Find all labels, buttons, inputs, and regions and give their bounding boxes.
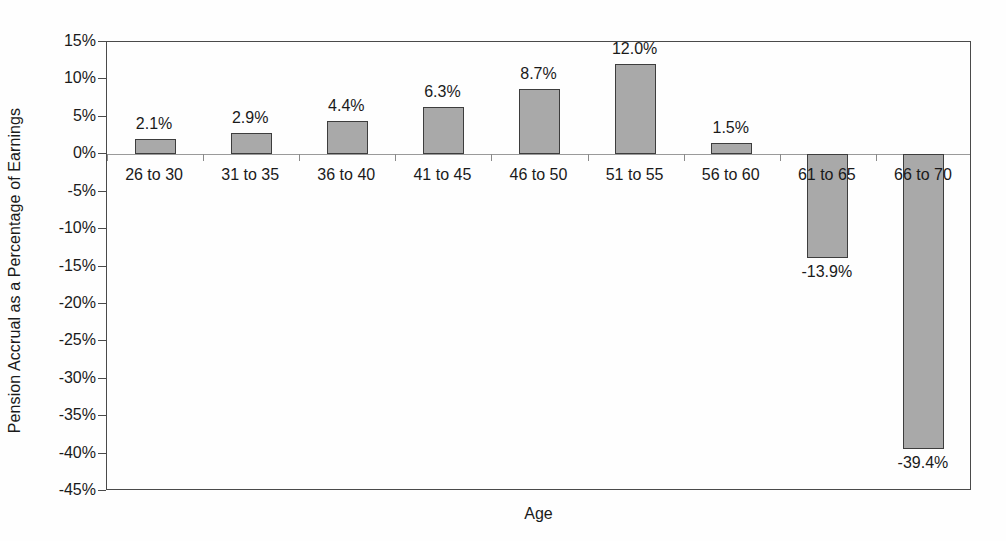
y-axis-tick-label: -25% (38, 332, 96, 348)
x-axis-category-label: 51 to 55 (580, 167, 690, 183)
y-axis-tick-mark (98, 303, 106, 304)
y-axis-tick-label: 10% (38, 70, 96, 86)
bar-value-label: 12.0% (580, 41, 690, 57)
bar-value-label: 6.3% (387, 84, 497, 100)
bar (135, 139, 176, 155)
bar (423, 107, 464, 154)
bar (711, 143, 752, 154)
y-axis-tick-label: -5% (38, 183, 96, 199)
x-axis-tick-mark (107, 154, 108, 161)
x-axis-category-label: 61 to 65 (772, 167, 882, 183)
y-axis-tick-mark (98, 340, 106, 341)
bar-value-label: -13.9% (772, 264, 882, 280)
bar (903, 154, 944, 449)
x-axis-tick-mark (684, 154, 685, 161)
x-axis-category-label: 26 to 30 (99, 167, 209, 183)
pension-accrual-bar-chart: Pension Accrual as a Percentage of Earni… (0, 0, 1006, 541)
y-axis-tick-mark (98, 453, 106, 454)
y-axis-tick-label: -30% (38, 370, 96, 386)
x-axis-tick-mark (299, 154, 300, 161)
y-axis-tick-mark (98, 191, 106, 192)
x-axis-tick-mark (780, 154, 781, 161)
x-axis-category-label: 66 to 70 (868, 167, 978, 183)
bar-value-label: 4.4% (291, 98, 401, 114)
y-axis-tick-label: -45% (38, 482, 96, 498)
x-axis-category-label: 46 to 50 (484, 167, 594, 183)
bar-value-label: -39.4% (868, 455, 978, 471)
x-axis-tick-mark (491, 154, 492, 161)
y-axis-tick-label: -35% (38, 407, 96, 423)
x-axis-tick-mark (203, 154, 204, 161)
x-axis-category-label: 31 to 35 (195, 167, 305, 183)
y-axis-tick-mark (98, 41, 106, 42)
y-axis-tick-mark (98, 78, 106, 79)
x-axis-category-label: 41 to 45 (387, 167, 497, 183)
bar-value-label: 8.7% (484, 66, 594, 82)
bar (519, 89, 560, 154)
x-axis-category-label: 56 to 60 (676, 167, 786, 183)
x-axis-tick-mark (588, 154, 589, 161)
y-axis-tick-label: 15% (38, 33, 96, 49)
y-axis-tick-mark (98, 153, 106, 154)
bar (231, 133, 272, 155)
y-axis-tick-label: -20% (38, 295, 96, 311)
y-axis-tick-mark (98, 415, 106, 416)
y-axis-tick-label: -10% (38, 220, 96, 236)
x-axis-title: Age (106, 505, 971, 523)
y-axis-title: Pension Accrual as a Percentage of Earni… (0, 0, 30, 541)
x-axis-category-label: 36 to 40 (291, 167, 401, 183)
y-axis-tick-label: 5% (38, 108, 96, 124)
bar-value-label: 2.9% (195, 110, 305, 126)
y-axis-tick-mark (98, 378, 106, 379)
y-axis-tick-mark (98, 266, 106, 267)
y-axis-tick-label: 0% (38, 145, 96, 161)
y-axis-tick-labels: 15%10%5%0%-5%-10%-15%-20%-25%-30%-35%-40… (34, 0, 96, 541)
y-axis-tick-mark (98, 490, 106, 491)
bar (615, 64, 656, 154)
y-axis-tick-label: -40% (38, 445, 96, 461)
x-axis-tick-mark (395, 154, 396, 161)
y-axis-tick-label: -15% (38, 258, 96, 274)
bar (327, 121, 368, 154)
x-axis-tick-mark (876, 154, 877, 161)
bar-value-label: 1.5% (676, 120, 786, 136)
bar-value-label: 2.1% (99, 116, 209, 132)
y-axis-tick-mark (98, 228, 106, 229)
